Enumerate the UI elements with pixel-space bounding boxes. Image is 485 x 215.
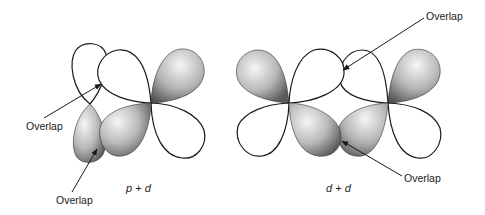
left-d-upper-right-lobe — [289, 49, 344, 103]
overlap-label-upper: Overlap — [26, 120, 63, 132]
d-orbital-upper-right-lobe — [151, 49, 204, 103]
overlap-label-upper: Overlap — [426, 10, 463, 22]
overlap-label-lower: Overlap — [404, 172, 441, 184]
left-d-lower-left-lobe — [237, 103, 289, 156]
right-d-lower-left-lobe — [338, 103, 388, 156]
panel-caption: p + d — [125, 182, 152, 194]
overlap-label-lower: Overlap — [56, 194, 93, 206]
left-d-upper-left-lobe — [236, 50, 289, 103]
panel-caption: d + d — [326, 182, 352, 194]
left-d-lower-right-lobe — [289, 103, 341, 156]
right-d-lower-right-lobe — [388, 103, 441, 158]
d-orbital-lower-right-lobe — [151, 103, 205, 158]
d-orbital-upper-left-lobe — [98, 50, 151, 103]
right-d-upper-right-lobe — [388, 49, 440, 103]
d-orbital-lower-left-lobe — [100, 103, 151, 156]
panel-d-plus-d: Overlap Overlap d + d — [236, 10, 463, 194]
right-d-upper-left-lobe — [339, 50, 388, 103]
orbital-overlap-diagram: Overlap Overlap p + d Overlap Overlap d … — [0, 0, 485, 215]
panel-p-plus-d: Overlap Overlap p + d — [26, 44, 205, 206]
